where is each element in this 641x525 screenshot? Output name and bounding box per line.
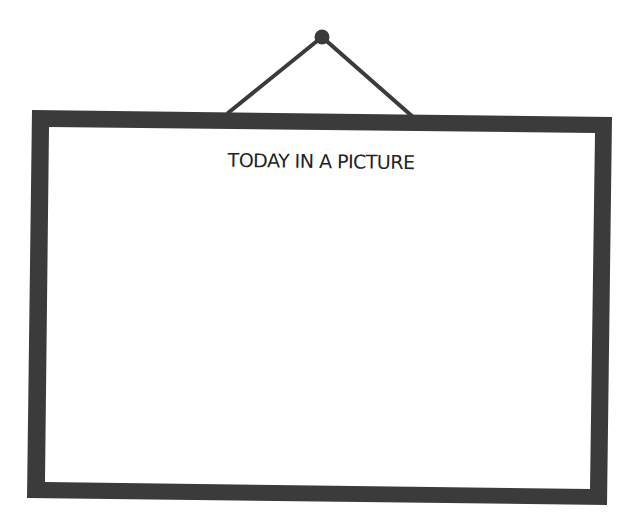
hanging-string-right: [322, 37, 413, 117]
picture-title: TODAY IN A PICTURE: [226, 149, 414, 173]
picture-canvas[interactable]: [45, 127, 595, 489]
hanging-picture-frame: TODAY IN A PICTURE: [0, 0, 641, 525]
hanging-string-left: [228, 37, 322, 113]
nail-icon: [315, 30, 330, 45]
